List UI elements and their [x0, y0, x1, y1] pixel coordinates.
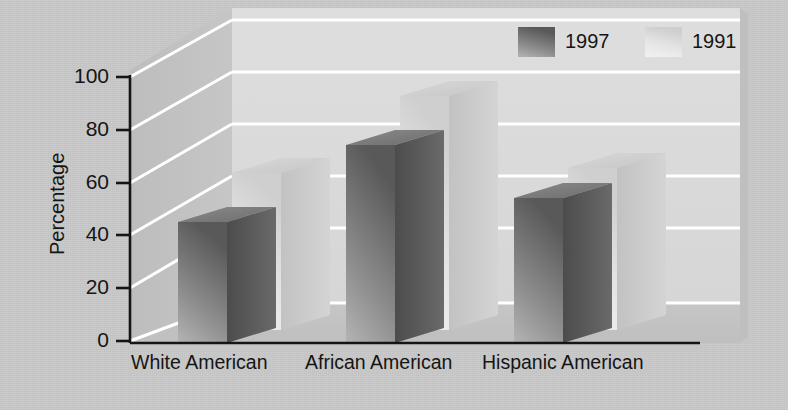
- y-tick-label-40: 40: [54, 222, 109, 246]
- bar-side: [563, 183, 612, 343]
- y-tick-label-100: 100: [54, 64, 109, 88]
- y-tick-label-0: 0: [54, 328, 109, 352]
- bar-side: [449, 81, 498, 330]
- legend-swatch-1991[interactable]: [645, 27, 682, 57]
- bar-1997-hispanic-american[interactable]: [514, 183, 612, 343]
- legend-swatch-1997[interactable]: [518, 27, 555, 57]
- x-tick-label-african-american: African American: [305, 351, 452, 374]
- bar-1997-white-american[interactable]: [178, 207, 276, 343]
- bar-side: [281, 158, 330, 330]
- y-tick-label-20: 20: [54, 275, 109, 299]
- bar-chart-figure: [0, 0, 788, 410]
- bar-side: [617, 153, 666, 330]
- legend-label-1991: 1991: [692, 30, 737, 53]
- y-tick-label-80: 80: [54, 117, 109, 141]
- x-tick-label-hispanic-american: Hispanic American: [482, 351, 643, 374]
- bar-side: [395, 130, 444, 343]
- y-tick-label-60: 60: [54, 170, 109, 194]
- legend-label-1997: 1997: [565, 30, 610, 53]
- bar-front: [178, 222, 227, 343]
- x-tick-label-white-american: White American: [131, 351, 268, 374]
- bar-side: [227, 207, 276, 343]
- bar-front: [514, 198, 563, 343]
- bar-front: [346, 145, 395, 343]
- right-wall-shadow: [740, 8, 748, 343]
- bar-1997-african-american[interactable]: [346, 130, 444, 343]
